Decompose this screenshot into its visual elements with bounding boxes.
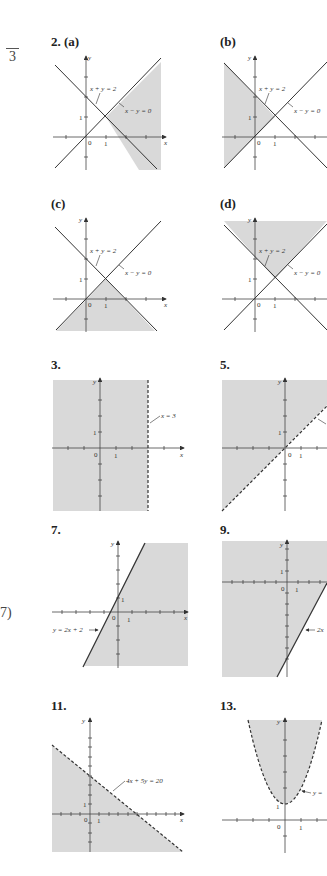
graph-3: y x 0 1 1 x = 3 [52,378,184,511]
annotation-x-minus-y: x − y = 0 [124,269,152,277]
graph-2a: y x 0 1 1 x + y = 2 x − y = 0 [53,54,168,170]
tick-1-x: 1 [104,140,108,148]
tick-1-x: 1 [273,140,277,148]
y-axis-label: y [110,540,115,548]
origin-label: 0 [94,451,98,459]
annotation-x-minus-y: x − y = 0 [293,107,321,115]
shaded-region [222,541,327,677]
tick-1-y: 1 [248,276,252,284]
origin-label: 0 [277,823,281,831]
tick-1-y: 1 [280,568,284,576]
tick-1-y: 1 [278,429,282,437]
tick-1-x: 1 [295,586,299,594]
y-axis-label: y [247,54,252,62]
annotation-x-minus-y: x − y = 0 [124,107,152,115]
y-axis-label: y [81,717,86,725]
graph-5: y 0 1 1 [222,378,327,511]
tick-1-x: 1 [104,302,108,310]
annotation-x-plus-y: x + y = 2 [89,85,117,93]
tick-1-y: 1 [93,429,97,437]
origin-label: 0 [257,301,261,309]
tick-1-x: 1 [114,452,118,460]
tick-1-x: 1 [299,452,303,460]
y-axis-label: y [87,54,92,62]
origin-label: 0 [84,816,88,824]
annotation-x-plus-y: x + y = 2 [258,247,286,255]
tick-1-x: 1 [273,302,277,310]
tick-1-x: 1 [97,817,101,825]
annotation-y-2x-plus-2: y = 2x + 2 [52,626,83,634]
graphs-canvas: y x 0 1 1 x + y = 2 x − y = 0 y 0 1 1 x … [0,0,327,876]
tick-1-y: 1 [79,114,83,122]
graph-13: y 0 1 1 y = [222,718,327,853]
shaded-region [106,62,161,170]
graph-2d: y 0 1 1 x + y = 2 x − y = 0 [222,216,327,332]
origin-label: 0 [88,301,92,309]
graph-7: y x 0 1 1 y = 2x + 2 [52,540,188,668]
annotation-x-plus-y: x + y = 2 [89,247,117,255]
annotation-x-minus-y: x − y = 0 [293,269,321,277]
x-axis-label: x [179,451,184,459]
origin-label: 0 [281,585,285,593]
annotation-y-equals: y = [312,789,323,797]
graph-2b: y 0 1 1 x + y = 2 x − y = 0 [222,54,327,170]
annotation-4x-5y-20: 4x + 5y = 20 [126,777,163,785]
x-axis-label: x [163,301,168,309]
tick-1-x: 1 [299,824,303,832]
x-axis-label: x [163,139,168,147]
origin-label: 0 [257,139,261,147]
shaded-region [222,380,327,511]
y-axis-label: y [78,216,83,224]
tick-1-y: 1 [121,596,125,604]
tick-1-y: 1 [276,803,280,811]
tick-1-x: 1 [127,616,131,624]
graph-9: y 0 1 1 2x [222,540,327,677]
origin-label: 0 [88,139,92,147]
x-axis-label: x [179,816,184,824]
origin-label: 0 [112,614,116,622]
annotation-x-plus-y: x + y = 2 [258,85,286,93]
graph-11: y x 0 1 1 4x + 5y = 20 [52,717,184,852]
tick-1-y: 1 [79,276,83,284]
annotation-2x: 2x [317,626,325,634]
annotation-x-3: x = 3 [160,412,176,420]
tick-1-y: 1 [248,114,252,122]
origin-label: 0 [288,451,292,459]
tick-1-y: 1 [83,801,87,809]
graph-2c: y x 0 1 1 x + y = 2 x − y = 0 [53,216,168,332]
